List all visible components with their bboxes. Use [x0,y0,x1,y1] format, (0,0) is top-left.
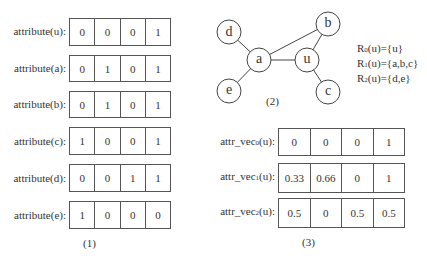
attr-vector-0: 0 0 0 1 [278,128,405,156]
attr-vec-label-1: attr_vec1(u): [200,170,275,182]
attr-vec-label-2: attr_vec2(u): [200,205,275,217]
neighborhood-sets: R0(u)={u} R1(u)={a,b,c} R2(u)={d,e} [357,42,418,87]
vector-cell: 0.5 [341,199,373,227]
vector-cell: 0 [341,129,373,155]
vector-cell: 1 [373,164,405,192]
set-r0: R0(u)={u} [357,42,418,57]
graph-node-a: a [252,51,266,67]
vector-cell: 0 [341,164,373,192]
caption-2: (2) [266,95,279,107]
graph-node-c: c [321,83,335,99]
graph-node-d: d [222,24,236,40]
set-r2: R2(u)={d,e} [357,72,418,87]
graph-node-b: b [321,15,335,31]
caption-3: (3) [302,236,315,248]
vector-cell: 0.33 [279,164,310,192]
attr-vector-2: 0.5 0 0.5 0.5 [278,198,405,228]
vector-cell: 0.5 [373,199,405,227]
vector-cell: 0 [279,129,310,155]
set-r1: R1(u)={a,b,c} [357,57,418,72]
vector-cell: 0 [310,199,342,227]
vector-cell: 1 [373,129,405,155]
vector-cell: 0 [310,129,342,155]
attr-vector-1: 0.33 0.66 0 1 [278,163,405,193]
graph-node-e: e [222,82,236,98]
attr-vec-label-0: attr_vec0(u): [200,135,275,147]
graph-node-u: u [300,51,314,67]
vector-cell: 0.5 [279,199,310,227]
vector-cell: 0.66 [310,164,342,192]
